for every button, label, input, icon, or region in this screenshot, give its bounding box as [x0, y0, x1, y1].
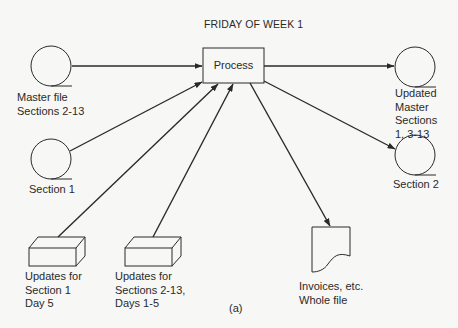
edge-process-to-invoices: [250, 83, 330, 226]
section-1-label: Section 1: [29, 183, 75, 197]
diagram-title: FRIDAY OF WEEK 1: [204, 18, 303, 30]
figure-caption: (a): [229, 302, 242, 314]
process-label: Process: [203, 48, 264, 83]
section-2-file-icon: [395, 135, 436, 175]
invoices-document-icon: [312, 227, 350, 272]
master-file-icon: [31, 46, 72, 86]
invoices-label: Invoices, etc. Whole file: [299, 280, 363, 307]
updated-master-label: Updated Master Sections 1, 3-13: [395, 87, 437, 141]
diagram-canvas: FRIDAY OF WEEK 1 Process Master file Sec…: [0, 0, 458, 328]
section-2-label: Section 2: [393, 178, 439, 192]
updates-section-1-label: Updates for Section 1 Day 5: [25, 270, 82, 311]
section-1-file-icon: [31, 139, 72, 179]
updated-master-file-icon: [395, 47, 436, 87]
updates-sections-2-13-label: Updates for Sections 2-13, Days 1-5: [115, 270, 185, 311]
master-file-label: Master file Sections 2-13: [17, 91, 84, 118]
updates-sections-2-13-deck-icon: [125, 237, 181, 266]
updates-section-1-deck-icon: [29, 237, 85, 266]
edge-section1-to-process: [70, 82, 202, 151]
edge-process-to-section2: [264, 81, 395, 149]
